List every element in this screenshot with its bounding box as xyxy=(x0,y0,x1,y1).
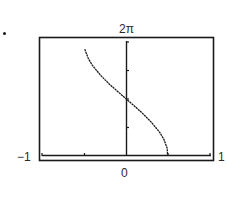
x-max-label: 1 xyxy=(218,151,225,163)
y-max-label: 2π xyxy=(119,23,134,35)
x-min-label: −1 xyxy=(17,151,31,163)
x-zero-label: 0 xyxy=(121,167,128,179)
plot-area xyxy=(0,0,227,204)
